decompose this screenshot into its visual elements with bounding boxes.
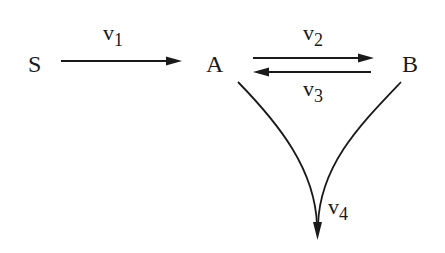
reaction-diagram: S A B v1 v2 v3 v4 (0, 0, 445, 253)
edge-label-v2: v2 (303, 20, 323, 50)
edge-label-v3: v3 (303, 76, 323, 106)
edge-label-v1: v1 (103, 20, 123, 50)
arrowhead-icon (313, 222, 322, 240)
arrowhead-icon (253, 68, 269, 77)
arrowhead-icon (358, 54, 374, 63)
edge-label-v4: v4 (328, 194, 348, 224)
edge-v1 (61, 57, 182, 66)
arrowhead-icon (166, 57, 182, 66)
node-a: A (206, 51, 224, 77)
node-b: B (402, 51, 418, 77)
edge-v2 (253, 54, 374, 63)
node-s: S (28, 51, 41, 77)
